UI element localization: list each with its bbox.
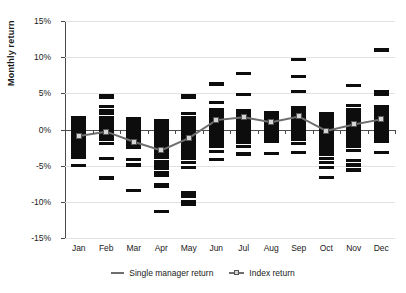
y-axis-tick-label: -15%	[15, 234, 51, 242]
x-axis-tick	[120, 130, 121, 134]
x-axis-tick	[368, 130, 369, 134]
x-axis-tick	[285, 130, 286, 134]
x-axis-tick	[93, 130, 94, 134]
x-axis-tick	[65, 130, 66, 134]
x-axis-tick-label: Dec	[361, 243, 401, 253]
plot-area: 15%10%5%0%-5%-10%-15% JanFebMarAprMayJun…	[65, 21, 395, 238]
index-return-marker	[131, 139, 137, 145]
index-return-marker	[296, 113, 302, 119]
x-axis-tick	[340, 130, 341, 134]
index-return-marker	[186, 135, 192, 141]
index-return-marker	[323, 128, 329, 134]
index-return-marker	[268, 119, 274, 125]
y-axis-tick-label: 15%	[15, 17, 51, 25]
index-return-marker	[76, 133, 82, 139]
x-axis-tick	[258, 130, 259, 134]
legend-item-single-manager-return: Single manager return	[111, 268, 213, 278]
x-axis-tick	[395, 130, 396, 134]
legend-label-single-manager-return: Single manager return	[129, 268, 213, 278]
line-square-swatch-icon	[229, 270, 244, 276]
index-return-marker	[158, 147, 164, 153]
monthly-return-chart: Monthly return 15%10%5%0%-5%-10%-15% Jan…	[0, 0, 406, 293]
x-axis-tick	[313, 130, 314, 134]
y-axis-tick-label: 10%	[15, 53, 51, 61]
y-axis-tick-label: 0%	[15, 126, 51, 134]
x-axis-tick	[175, 130, 176, 134]
y-axis-tick-label: -5%	[15, 162, 51, 170]
legend-label-index-return: Index return	[249, 268, 294, 278]
x-axis-tick	[148, 130, 149, 134]
line-swatch-icon	[111, 272, 124, 274]
index-return-marker	[241, 114, 247, 120]
legend-item-index-return: Index return	[229, 268, 294, 278]
chart-legend: Single manager return Index return	[0, 268, 406, 278]
x-axis-tick	[203, 130, 204, 134]
y-axis-tick-label: 5%	[15, 89, 51, 97]
index-return-marker	[213, 117, 219, 123]
index-return-marker	[103, 129, 109, 135]
x-axis-tick	[230, 130, 231, 134]
y-axis-title: Monthly return	[6, 0, 16, 86]
index-return-marker	[351, 121, 357, 127]
y-axis-tick-label: -10%	[15, 198, 51, 206]
gridline	[65, 238, 395, 239]
y-axis-tick	[61, 238, 65, 239]
index-return-marker	[378, 116, 384, 122]
